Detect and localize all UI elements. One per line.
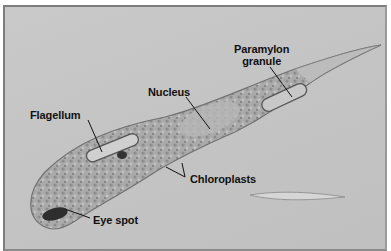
label-chloroplasts: Chloroplasts <box>190 173 256 185</box>
label-paramylon-granule: Paramylon granule <box>234 43 289 67</box>
micrograph-frame: Paramylon granule Nucleus Flagellum Chlo… <box>3 5 387 251</box>
label-flagellum: Flagellum <box>30 109 80 121</box>
label-eye-spot: Eye spot <box>93 214 138 226</box>
label-nucleus: Nucleus <box>148 86 190 98</box>
euglena-cell-image <box>5 7 385 249</box>
label-paramylon-line1: Paramylon <box>234 43 289 55</box>
label-paramylon-line2: granule <box>234 55 289 67</box>
